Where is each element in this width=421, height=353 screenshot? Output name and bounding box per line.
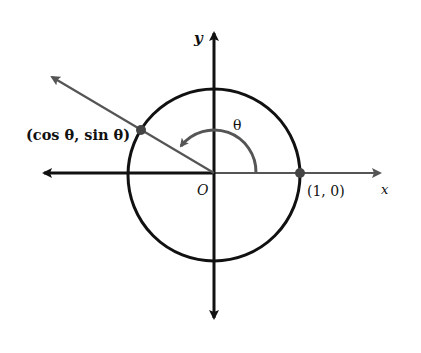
theta-label: θ: [233, 117, 241, 133]
y-axis-label: y: [193, 29, 204, 47]
unit-circle-diagram: y x O θ (cos θ, sin θ) (1, 0): [0, 0, 421, 353]
origin-label: O: [197, 182, 209, 198]
angle-arc: [181, 130, 256, 173]
point-one-zero-label: (1, 0): [307, 183, 345, 199]
point-one-zero: [295, 168, 305, 178]
point-cos-sin-label: (cos θ, sin θ): [26, 126, 130, 143]
x-axis-label: x: [381, 182, 389, 197]
point-cos-sin: [136, 125, 146, 135]
